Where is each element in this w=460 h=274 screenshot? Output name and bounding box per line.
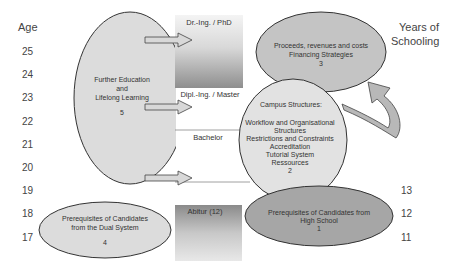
curved-arrow-icon [342,82,400,138]
age-ticks: 25 24 23 22 21 20 19 18 17 [22,46,34,243]
schooling-axis-title-line1: Years of [399,21,440,33]
phd-label: Dr.-Ing. / PhD [186,18,232,27]
age-tick: 22 [22,116,34,127]
proceeds-node[interactable]: Proceeds, revenues and costs Financing S… [256,12,386,92]
bachelor-label: Bachelor [193,133,223,142]
further-education-line1: Further Education [94,76,150,83]
campus-line1: Workflow and Organisational [245,119,335,127]
campus-node[interactable]: Campus Structures: Workflow and Organisa… [239,79,347,201]
campus-number: 2 [288,167,292,174]
further-education-number: 5 [120,109,124,116]
age-tick: 20 [22,162,34,173]
campus-line6: Ressources [272,159,309,166]
high-school-line2: High School [300,217,338,225]
age-tick: 23 [22,92,34,103]
schooling-ticks: 13 12 11 [401,185,413,243]
proceeds-number: 3 [319,60,323,67]
further-education-line2: and [116,85,128,92]
age-tick: 24 [22,69,34,80]
age-tick: 21 [22,139,34,150]
curved-arrow [342,82,400,138]
high-school-ellipse [245,186,393,246]
campus-line5: Tutorial System [266,151,315,159]
age-tick: 17 [22,232,34,243]
education-diagram: Age 25 24 23 22 21 20 19 18 17 Years of … [0,0,460,274]
proceeds-line1: Proceeds, revenues and costs [274,42,369,49]
schooling-tick: 11 [401,232,412,243]
dual-system-number: 4 [103,239,107,246]
campus-line4: Accreditation [270,143,311,150]
further-education-line3: Lifelong Learning [95,94,149,102]
schooling-tick: 12 [401,208,413,219]
high-school-node[interactable]: Prerequisites of Candidates from High Sc… [245,186,393,246]
high-school-line1: Prerequisites of Candidates from [268,209,370,217]
master-label: Dipl.-Ing. / Master [180,90,240,99]
dual-system-line2: from the Dual System [71,224,138,232]
dual-system-node[interactable]: Prerequisites of Candidates from the Dua… [39,202,171,258]
schooling-axis-title-line2: Schooling [391,35,439,47]
schooling-tick: 13 [401,185,413,196]
age-tick: 18 [22,208,34,219]
dual-system-line1: Prerequisites of Candidates [62,215,148,223]
campus-line3: Restrictions and Constraints [246,135,334,142]
age-tick: 25 [22,46,34,57]
high-school-number: 1 [317,225,321,232]
campus-line2: Structures [274,127,306,134]
proceeds-line2: Financing Strategies [289,51,353,59]
age-tick: 19 [22,185,34,196]
abitur-label: Abitur (12) [187,207,223,216]
campus-title: Campus Structures: [260,101,322,109]
age-axis-title: Age [18,21,38,33]
